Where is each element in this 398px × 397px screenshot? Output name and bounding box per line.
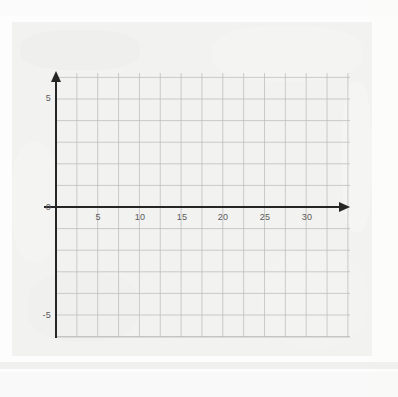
coordinate-graph: 5 0 -5 5 10 15 20 25 30 — [0, 0, 398, 397]
x-axis-arrow-icon — [339, 202, 350, 212]
graph-svg — [0, 0, 398, 397]
grid-lines-vertical — [56, 73, 348, 337]
worksheet-page: 5 0 -5 5 10 15 20 25 30 — [0, 0, 398, 397]
y-axis-arrow-icon — [51, 71, 61, 82]
